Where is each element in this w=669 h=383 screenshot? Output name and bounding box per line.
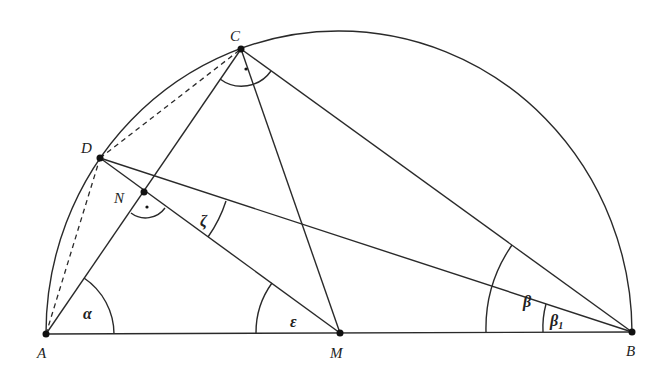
segment-DC-dashed — [100, 49, 241, 158]
angle-zeta-arc — [208, 201, 226, 237]
label-beta1-subscript: 1 — [558, 320, 563, 331]
label-alpha: α — [83, 305, 93, 322]
segment-AD-dashed — [46, 158, 100, 334]
angle-epsilon-arc — [256, 283, 272, 333]
geometry-figure: A B M C D N α ε ζ β β1 — [0, 0, 669, 383]
label-A: A — [36, 345, 47, 361]
label-N: N — [113, 190, 125, 206]
right-angle-arc-N — [131, 208, 165, 218]
diagram-canvas: A B M C D N α ε ζ β β1 — [0, 0, 669, 383]
label-B: B — [626, 343, 635, 359]
segment-DM — [100, 158, 340, 333]
point-D — [97, 155, 104, 162]
right-angle-dot-C — [244, 67, 247, 70]
right-angle-arc-C — [220, 71, 271, 86]
label-D: D — [80, 140, 92, 156]
point-A — [43, 331, 50, 338]
point-C — [238, 46, 245, 53]
angle-beta1-arc — [543, 304, 546, 332]
point-B — [629, 329, 636, 336]
point-M — [337, 330, 344, 337]
label-beta: β — [522, 293, 532, 311]
segment-DB — [100, 158, 632, 332]
label-C: C — [230, 28, 241, 44]
segment-CM — [241, 49, 340, 333]
segment-CB — [241, 49, 632, 332]
right-angle-dot-N — [145, 205, 148, 208]
label-zeta: ζ — [200, 212, 208, 230]
label-epsilon: ε — [290, 313, 297, 330]
label-M: M — [329, 345, 344, 361]
label-beta1: β1 — [549, 312, 563, 331]
point-N — [141, 189, 148, 196]
